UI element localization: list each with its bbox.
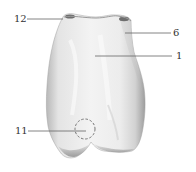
label-1: 1 — [176, 51, 182, 61]
tooth-diagram: 12 6 1 11 — [0, 0, 196, 172]
label-12: 12 — [14, 14, 27, 24]
label-11: 11 — [15, 126, 28, 136]
tooth-illustration — [0, 0, 196, 172]
label-6: 6 — [173, 28, 179, 38]
